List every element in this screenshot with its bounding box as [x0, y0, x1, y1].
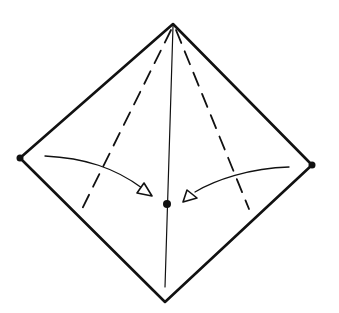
- left-corner-dot: [17, 155, 24, 162]
- right-fold-arrow: [195, 167, 289, 192]
- left-valley-fold-line: [82, 30, 171, 209]
- right-corner-dot: [309, 162, 316, 169]
- origami-diagram: [0, 0, 339, 313]
- left-arrowhead-icon: [137, 183, 152, 196]
- center-target-dot: [163, 200, 171, 208]
- center-crease: [165, 26, 173, 287]
- left-fold-arrow: [45, 156, 142, 188]
- right-valley-fold-line: [176, 30, 249, 209]
